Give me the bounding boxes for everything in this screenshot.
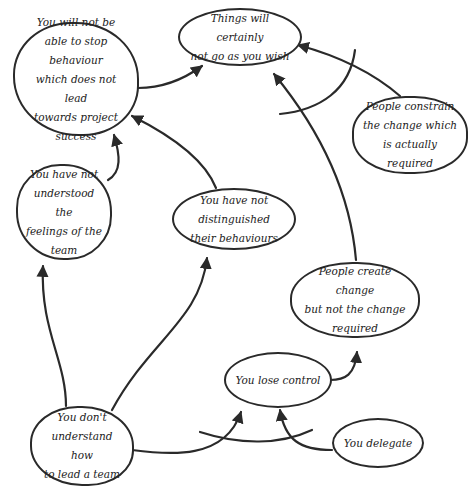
node-dont-understand-how-to-lead: You don't understand how to lead a team bbox=[30, 406, 134, 486]
node-things-will-not-go-as-you-wish: Things will certainly not go as you wish bbox=[178, 8, 302, 66]
node-you-delegate: You delegate bbox=[332, 418, 424, 468]
arrow-lead-to-distinguished bbox=[112, 258, 207, 410]
arrow-lead-to-lose-control bbox=[132, 412, 241, 453]
arrow-delegate-to-lose-control bbox=[280, 410, 332, 450]
node-cannot-stop-behaviour: You will not be able to stop behaviour w… bbox=[13, 22, 139, 136]
arrow-lead-to-feelings bbox=[43, 266, 66, 406]
node-not-distinguished-behaviours: You have not distinguished their behavio… bbox=[172, 188, 296, 250]
arrow-cannot-stop-to-things bbox=[138, 66, 202, 88]
node-people-create-change: People create change but not the change … bbox=[290, 262, 420, 338]
diagram-canvas: Things will certainly not go as you wish… bbox=[0, 0, 473, 492]
node-not-understood-feelings: You have not understood the feelings of … bbox=[16, 164, 112, 260]
arrow-distinguished-to-cannot bbox=[132, 116, 216, 188]
node-people-constrain-change: People constrain the change which is act… bbox=[352, 96, 468, 174]
arrow-lose-control-to-create bbox=[330, 352, 357, 380]
node-you-lose-control: You lose control bbox=[224, 352, 332, 408]
